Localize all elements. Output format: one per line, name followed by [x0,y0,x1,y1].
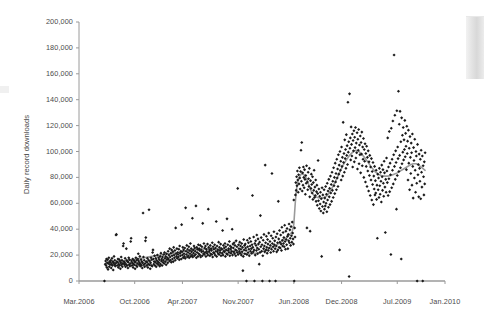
scatter-point [370,157,373,160]
scatter-point [330,171,333,174]
scatter-point [304,193,307,196]
scatter-point [273,239,276,242]
scatter-point [340,178,343,181]
scatter-point [288,228,291,231]
scatter-point [348,92,351,95]
x-tick-label: Apr.2007 [152,297,212,306]
scatter-point [277,237,280,240]
scatter-point [341,175,344,178]
scatter-point [286,227,289,230]
scatter-point [338,248,341,251]
scatter-chart: Daily record downloads 020,00040,00060,0… [0,0,484,321]
scatter-point [366,169,369,172]
scatter-point [285,243,288,246]
scatter-point [282,231,285,234]
x-tick-label: Nov.2007 [208,297,268,306]
scatter-point [350,143,353,146]
scatter-point [274,235,277,238]
scatter-point [279,233,282,236]
scatter-point [361,164,364,167]
scatter-point [302,165,305,168]
scatter-point [323,208,326,211]
scatter-point [276,232,279,235]
scatter-point [352,139,355,142]
scatter-point [270,234,273,237]
scatter-point [397,157,400,160]
scatter-point [288,222,291,225]
scatter-point [264,164,267,167]
scatter-point [408,188,411,191]
scatter-point [386,181,389,184]
scatter-point [356,167,359,170]
scatter-point [410,142,413,145]
y-tick-label: 180,000 [0,43,73,52]
scatter-point [241,269,244,272]
scatter-point [202,242,205,245]
scatter-points [103,53,427,282]
scatter-point [402,158,405,161]
scatter-point [172,246,175,249]
scatter-point [354,126,357,129]
scatter-point [191,217,194,220]
scatter-point [363,148,366,151]
scatter-point [368,174,371,177]
trend-line [106,150,425,263]
scatter-point [333,176,336,179]
scatter-point [388,130,391,133]
scatter-point [254,239,257,242]
scatter-point [406,152,409,155]
scatter-point [390,186,393,189]
scatter-point [301,184,304,187]
axis-lines [79,22,445,281]
scatter-point [194,204,197,207]
scatter-point [242,238,245,241]
scatter-point [363,142,366,145]
scatter-point [310,173,313,176]
scatter-point [342,152,345,155]
scatter-point [283,224,286,227]
scatter-point [341,156,344,159]
scatter-point [378,184,381,187]
scatter-point [280,226,283,229]
scatter-point [383,160,386,163]
screenshot-root: Daily record downloads 020,00040,00060,0… [0,0,484,321]
scatter-point [401,134,404,137]
scatter-point [235,239,238,242]
scatter-point [402,138,405,141]
scatter-point [328,195,331,198]
scatter-point [236,187,239,190]
scatter-point [272,250,275,253]
scatter-point [411,132,414,135]
scatter-point [309,179,312,182]
scatter-point [388,190,391,193]
scatter-point [225,217,228,220]
scatter-point [359,171,362,174]
scatter-point [364,152,367,155]
scatter-point [381,168,384,171]
scatter-point [245,279,248,282]
scatter-point [365,185,368,188]
y-tick-label: 0 [0,276,73,285]
scatter-point [392,182,395,185]
scatter-point [206,243,209,246]
scatter-point [385,156,388,159]
scatter-point [306,188,309,191]
scatter-point [346,163,349,166]
scatter-point [301,189,304,192]
scatter-point [378,167,381,170]
scatter-point [284,230,287,233]
scatter-point [277,200,280,203]
scatter-point [336,167,339,170]
scatter-point [380,164,383,167]
scatter-point [313,186,316,189]
y-tick-label: 40,000 [0,224,73,233]
scatter-point [362,176,365,179]
scatter-point [278,229,281,232]
right-edge-scroll-strip[interactable] [466,16,484,79]
scatter-point [266,238,269,241]
scatter-point [379,171,382,174]
scatter-point [403,119,406,122]
scatter-point [393,114,396,117]
scatter-point [396,145,399,148]
scatter-point [412,146,415,149]
